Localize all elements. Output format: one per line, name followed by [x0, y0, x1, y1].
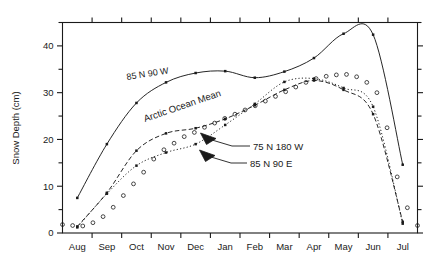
series-85n-90w-marker	[135, 102, 138, 105]
y-tick-label: 20	[43, 134, 54, 145]
x-tick-label: Jul	[397, 241, 409, 252]
series-85n-90w-marker	[254, 76, 257, 79]
chart-figure: 010203040 AugSepOctNovDecJanFebMarAprMay…	[0, 0, 437, 269]
series-75n-180w-marker	[135, 149, 138, 152]
snow-depth-line-chart: 010203040 AugSepOctNovDecJanFebMarAprMay…	[0, 0, 437, 269]
series-85n-90w-marker	[194, 72, 197, 75]
x-tick-label: Aug	[69, 241, 86, 252]
annotation-85n-90e: 85 N 90 E	[250, 158, 292, 169]
series-85n-90e-marker	[372, 105, 375, 108]
series-85n-90e-marker	[106, 192, 109, 195]
y-tick-label: 30	[43, 87, 54, 98]
series-85n-90w-marker	[76, 197, 79, 200]
series-85n-90w-marker	[165, 81, 168, 84]
x-tick-label: Jan	[218, 241, 233, 252]
series-85n-90e-marker	[135, 164, 138, 167]
x-tick-label: Sep	[98, 241, 115, 252]
x-tick-label: May	[335, 241, 353, 252]
series-85n-90w-marker	[372, 33, 375, 36]
x-tick-label: Nov	[158, 241, 175, 252]
series-85n-90e-marker	[283, 81, 286, 84]
chart-background	[0, 0, 437, 269]
y-tick-label: 0	[48, 227, 53, 238]
series-85n-90e-marker	[342, 87, 345, 90]
x-tick-label: Oct	[129, 241, 144, 252]
series-85n-90w-marker	[283, 70, 286, 73]
series-85n-90e-marker	[76, 226, 79, 229]
series-85n-90e-marker	[224, 124, 227, 127]
series-85n-90w-marker	[224, 70, 227, 73]
series-85n-90w-marker	[313, 57, 316, 60]
series-85n-90w-marker	[401, 163, 404, 166]
annotation-75n-180w: 75 N 180 W	[253, 141, 303, 152]
y-tick-label: 40	[43, 40, 54, 51]
x-tick-label: Jun	[365, 241, 380, 252]
series-85n-90e-marker	[401, 222, 404, 225]
x-tick-label: Apr	[307, 241, 322, 252]
y-axis-title: Snow Depth (cm)	[10, 91, 21, 164]
series-85n-90w-marker	[106, 143, 109, 146]
y-tick-label: 10	[43, 181, 54, 192]
x-tick-label: Mar	[276, 241, 292, 252]
x-tick-label: Feb	[247, 241, 263, 252]
series-75n-180w-marker	[372, 113, 375, 116]
series-75n-180w-marker	[194, 127, 197, 129]
series-75n-180w-marker	[165, 132, 168, 135]
series-85n-90w-marker	[342, 32, 345, 35]
x-tick-label: Dec	[187, 241, 204, 252]
series-85n-90e-marker	[194, 143, 197, 146]
